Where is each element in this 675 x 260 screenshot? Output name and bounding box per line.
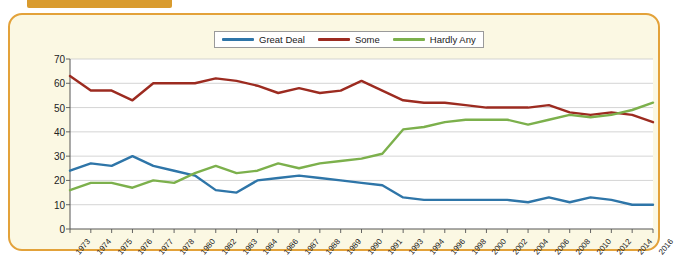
chart-panel: Great DealSomeHardly Any Percent 0102030…: [8, 13, 660, 251]
legend-swatch-icon: [393, 38, 425, 41]
y-tick-label: 40: [54, 126, 65, 137]
legend-item-hardly-any[interactable]: Hardly Any: [393, 35, 476, 45]
x-tick-label: 1994: [428, 237, 446, 256]
x-tick-label: 1996: [449, 237, 467, 256]
x-tick-label: 1991: [386, 237, 404, 256]
legend-swatch-icon: [318, 38, 350, 41]
x-tick-label: 1990: [365, 237, 383, 256]
header-strip: [0, 0, 670, 12]
x-tick-label: 1982: [220, 237, 238, 256]
x-tick-label: 2014: [636, 237, 654, 256]
legend-label: Great Deal: [259, 35, 305, 45]
y-tick-label: 70: [54, 54, 65, 65]
x-tick-label: 2004: [532, 237, 550, 256]
header-tab: [27, 0, 172, 8]
x-tick-label: 2012: [615, 237, 633, 256]
x-tick-label: 2010: [594, 237, 612, 256]
x-tick-label: 2008: [573, 237, 591, 256]
x-tick-label: 1973: [74, 237, 92, 256]
legend-item-some[interactable]: Some: [318, 35, 380, 45]
legend-label: Hardly Any: [430, 35, 476, 45]
x-tick-label: 1978: [178, 237, 196, 256]
x-tick-label: 1976: [136, 237, 154, 256]
y-tick-label: 50: [54, 102, 65, 113]
x-tick-label: 1977: [157, 237, 175, 256]
x-tick-label: 1986: [282, 237, 300, 256]
header-caption: [196, 0, 616, 4]
y-tick-label: 20: [54, 175, 65, 186]
y-tick-label: 60: [54, 78, 65, 89]
y-tick-label: 0: [59, 224, 65, 235]
chart-lines: [70, 59, 653, 229]
legend-item-great-deal[interactable]: Great Deal: [222, 35, 305, 45]
x-tick-label: 1980: [199, 237, 217, 256]
x-tick-label: 1988: [324, 237, 342, 256]
x-tick-label: 1993: [407, 237, 425, 256]
x-tick-label: 1998: [469, 237, 487, 256]
legend-label: Some: [355, 35, 380, 45]
x-tick-label: 1984: [261, 237, 279, 256]
plot-background: [70, 59, 653, 229]
x-tick-label: 2002: [511, 237, 529, 256]
x-tick-label: 2016: [657, 237, 675, 256]
x-tick-label: 1974: [95, 237, 113, 256]
x-tick-label: 1989: [344, 237, 362, 256]
x-tick-label: 1983: [240, 237, 258, 256]
x-tick-label: 2000: [490, 237, 508, 256]
y-tick-label: 30: [54, 151, 65, 162]
legend-swatch-icon: [222, 38, 254, 41]
y-tick-label: 10: [54, 199, 65, 210]
x-tick-label: 1987: [303, 237, 321, 256]
x-tick-label: 2006: [553, 237, 571, 256]
plot-area: Percent 010203040506070 1973197419751976…: [70, 59, 653, 229]
chart-legend: Great DealSomeHardly Any: [214, 31, 484, 48]
x-tick-label: 1975: [115, 237, 133, 256]
